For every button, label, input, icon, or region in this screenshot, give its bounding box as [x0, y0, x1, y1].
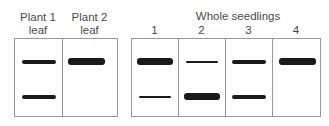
lane-divider	[225, 39, 226, 116]
label-line: Plant 2	[62, 11, 117, 24]
lane-divider	[178, 39, 179, 116]
seedlings-title: Whole seedlings	[178, 10, 298, 23]
band-seedling2-upper	[186, 61, 218, 63]
lane-label-seedling1: 1	[131, 24, 178, 37]
band-plant2-upper	[68, 58, 105, 65]
label-line: leaf	[14, 24, 62, 37]
lane-label-seedling2: 2	[178, 24, 225, 37]
band-plant1-lower	[22, 95, 56, 99]
gel-panel-leaves	[14, 38, 118, 117]
lane-label-plant1: Plant 1 leaf	[14, 11, 62, 37]
gel-panel-seedlings	[131, 38, 321, 117]
band-seedling1-lower	[139, 96, 171, 98]
band-seedling3-lower	[232, 95, 266, 99]
lane-divider	[272, 39, 273, 116]
band-seedling3-upper	[232, 60, 266, 64]
lane-divider	[62, 39, 63, 116]
band-plant1-upper	[22, 60, 56, 64]
lane-label-seedling3: 3	[225, 24, 272, 37]
band-seedling2-lower	[184, 93, 220, 100]
band-seedling4-upper	[279, 58, 316, 65]
label-line: Plant 1	[14, 11, 62, 24]
lane-label-seedling4: 4	[272, 24, 320, 37]
label-line: leaf	[62, 24, 117, 37]
lane-label-plant2: Plant 2 leaf	[62, 11, 117, 37]
band-seedling1-upper	[137, 58, 173, 65]
